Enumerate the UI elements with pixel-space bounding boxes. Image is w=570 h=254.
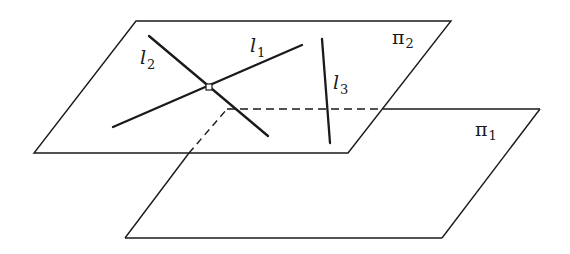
planes-diagram: l2 l1 l3 π2 π1 bbox=[0, 0, 570, 254]
line-l3 bbox=[322, 39, 330, 143]
label-pi1: π1 bbox=[475, 118, 497, 143]
label-l1: l1 bbox=[250, 34, 265, 60]
label-l3: l3 bbox=[333, 71, 348, 97]
plane-pi2 bbox=[34, 21, 451, 153]
intersection-point bbox=[206, 84, 212, 90]
label-pi2: π2 bbox=[392, 26, 414, 51]
label-l2: l2 bbox=[140, 46, 155, 72]
